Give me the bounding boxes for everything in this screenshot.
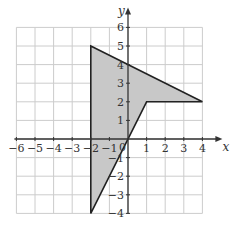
y-tick-label: 6	[117, 21, 124, 34]
y-tick-label: 4	[117, 59, 124, 72]
x-tick-label: −5	[27, 142, 43, 155]
x-tick-label: 4	[199, 142, 206, 155]
y-tick-label: −3	[108, 189, 124, 202]
y-tick-label: 1	[117, 114, 124, 127]
y-axis-label: y	[117, 4, 125, 18]
origin-label: 0	[119, 141, 126, 154]
y-tick-label: −4	[108, 207, 124, 220]
y-tick-label: 3	[117, 77, 124, 90]
y-tick-label: 2	[117, 96, 124, 109]
x-tick-label: −2	[83, 142, 99, 155]
coordinate-plane: −6−5−4−3−2−11234−4−3−2−1123456 x y 0	[0, 0, 236, 232]
x-tick-label: 2	[162, 142, 169, 155]
x-tick-label: 1	[143, 142, 150, 155]
x-tick-label: −3	[64, 142, 80, 155]
x-axis-label: x	[222, 140, 229, 154]
x-tick-label: 3	[180, 142, 187, 155]
x-tick-label: −4	[45, 142, 61, 155]
y-tick-label: 5	[117, 40, 124, 53]
y-tick-label: −2	[108, 170, 124, 183]
x-tick-label: −6	[8, 142, 24, 155]
